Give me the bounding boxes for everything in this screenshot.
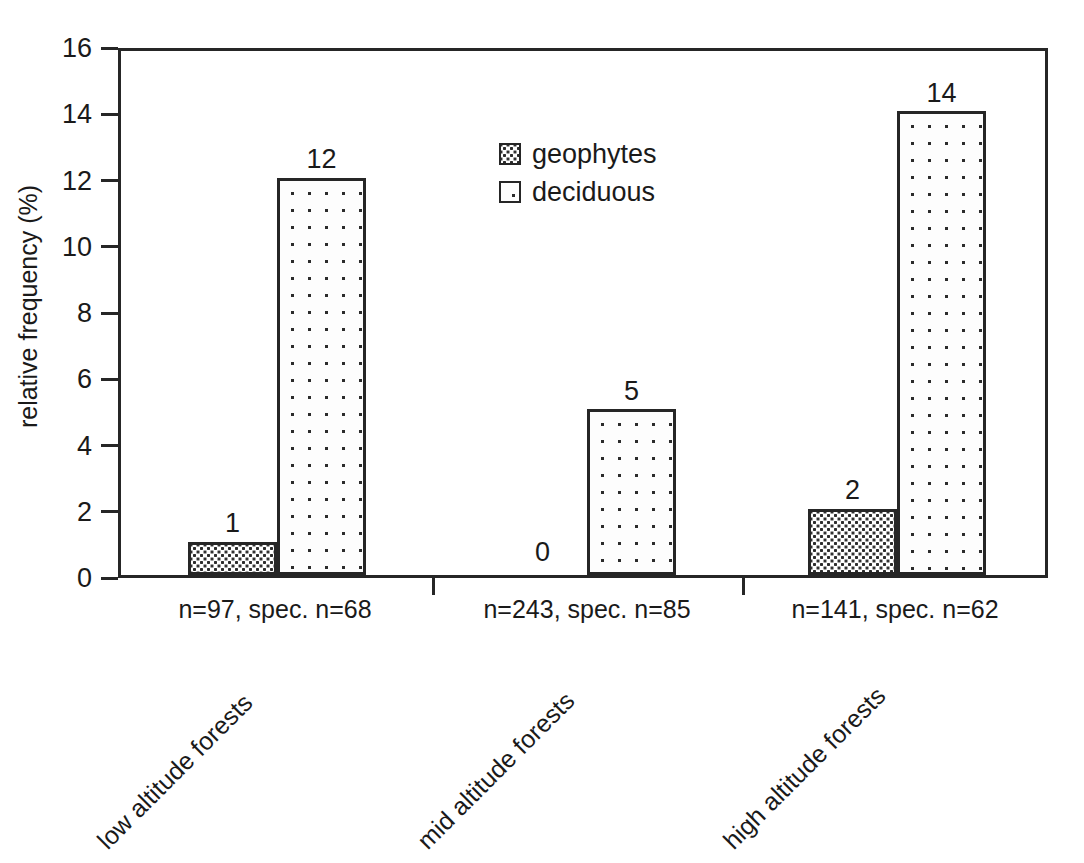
bar-geophytes-low-altitude-forests[interactable] [188,542,277,575]
group-sublabel-high-altitude-forests: n=141, spec. n=62 [742,594,1048,624]
legend-label-deciduous: deciduous [532,177,655,207]
y-axis-tick-mark [101,378,118,381]
bar-value-geophytes-mid: 0 [498,537,587,567]
y-axis-tick-mark [101,577,118,580]
bar-value-deciduous-low: 12 [277,144,366,174]
y-axis-tick-label: 8 [77,298,92,328]
group-sublabel-mid-altitude-forests: n=243, spec. n=85 [432,594,742,624]
x-axis-tick-mark [742,578,745,595]
group-sublabel-low-altitude-forests: n=97, spec. n=68 [118,594,432,624]
y-axis-tick-mark [101,47,118,50]
bar-deciduous-low-altitude-forests[interactable] [277,178,366,576]
y-axis-tick-label: 4 [77,431,92,461]
bar-value-deciduous-mid: 5 [587,376,676,406]
bar-value-deciduous-high: 14 [897,78,986,108]
bar-geophytes-high-altitude-forests[interactable] [808,509,897,575]
plot-area: 1 12 0 5 2 14 geophytes deciduous [118,48,1048,578]
legend-label-geophytes: geophytes [532,139,657,169]
category-label-low-altitude-forests: low altitude forests [91,687,259,855]
y-axis-tick-label: 2 [77,497,92,527]
y-axis-tick-label: 16 [62,33,92,63]
y-axis-tick-label: 14 [62,99,92,129]
bar-deciduous-high-altitude-forests[interactable] [897,111,986,575]
y-axis-tick-mark [101,113,118,116]
legend-swatch-geophytes-icon [499,143,521,165]
chart-canvas: 16 14 12 10 8 6 4 2 [0,0,1084,863]
y-axis-title: relative frequency (%) [14,47,43,567]
y-axis-tick-label: 10 [62,232,92,262]
y-axis-tick-label: 0 [77,563,92,593]
bar-value-geophytes-high: 2 [808,475,897,505]
y-axis-tick-mark [101,179,118,182]
y-axis-tick-mark [101,510,118,513]
y-axis-tick-label: 6 [77,364,92,394]
y-axis-tick-mark [101,312,118,315]
category-label-mid-altitude-forests: mid altitude forests [411,685,581,855]
y-axis-tick-mark [101,245,118,248]
legend-swatch-deciduous-icon [499,181,521,203]
y-axis-tick-label: 12 [62,166,92,196]
bar-deciduous-mid-altitude-forests[interactable] [587,409,676,575]
legend-item-deciduous[interactable]: deciduous [499,173,657,211]
x-axis-tick-mark [432,578,435,595]
legend: geophytes deciduous [499,135,657,211]
legend-item-geophytes[interactable]: geophytes [499,135,657,173]
y-axis-tick-mark [101,444,118,447]
category-label-high-altitude-forests: high altitude forests [717,680,892,855]
bar-value-geophytes-low: 1 [188,508,277,538]
